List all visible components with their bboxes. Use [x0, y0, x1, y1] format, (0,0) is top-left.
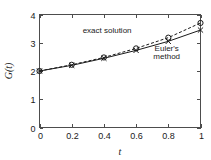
- y-axis-tick-labels: 01234: [30, 11, 35, 134]
- y-tick-label: 3: [30, 39, 35, 49]
- y-tick-label: 0: [30, 124, 35, 134]
- x-tick-label: 0.4: [98, 131, 111, 141]
- annotation-euler-method-line2: method: [153, 52, 180, 61]
- x-axis-title: t: [119, 146, 122, 157]
- y-tick-label: 2: [30, 67, 35, 77]
- x-tick-label: 1: [199, 131, 204, 141]
- y-tick-label: 4: [30, 11, 35, 21]
- x-tick-label: 0.6: [130, 131, 143, 141]
- plot-canvas: 00.20.40.60.81 01234 t G(t) exact soluti…: [0, 0, 211, 160]
- annotation-exact-solution: exact solution: [83, 26, 132, 35]
- x-tick-label: 0: [38, 131, 43, 141]
- y-tick-label: 1: [30, 95, 35, 105]
- x-tick-label: 0.8: [162, 131, 175, 141]
- figure-container: 00.20.40.60.81 01234 t G(t) exact soluti…: [0, 0, 211, 160]
- x-axis-tick-labels: 00.20.40.60.81: [38, 131, 204, 141]
- x-tick-label: 0.2: [66, 131, 79, 141]
- y-axis-title: G(t): [3, 62, 15, 79]
